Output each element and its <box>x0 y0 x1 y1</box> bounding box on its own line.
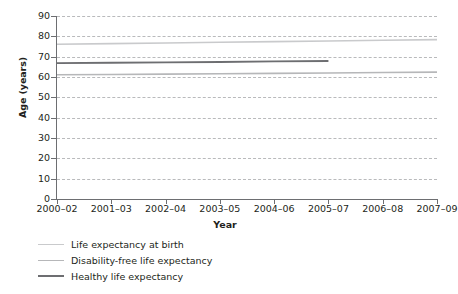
chart-legend: Life expectancy at birthDisability-free … <box>38 236 418 284</box>
legend-label: Disability-free life expectancy <box>71 255 212 266</box>
legend-swatch <box>38 275 64 277</box>
legend-swatch <box>38 244 64 245</box>
series-line <box>57 40 437 45</box>
plot-area: 0102030405060708090 <box>0 0 450 215</box>
x-tick-label: 2002–04 <box>145 203 186 215</box>
legend-swatch <box>38 260 64 261</box>
x-axis-title: Year <box>0 219 450 230</box>
x-tick-label: 2007–09 <box>416 203 457 215</box>
legend-item[interactable]: Life expectancy at birth <box>38 236 418 252</box>
legend-item[interactable]: Disability-free life expectancy <box>38 252 418 268</box>
x-tick-label: 2003–05 <box>199 203 240 215</box>
legend-label: Healthy life expectancy <box>71 271 183 282</box>
series-line <box>57 61 328 63</box>
legend-label: Life expectancy at birth <box>71 239 184 250</box>
x-tick-label: 2001–03 <box>91 203 132 215</box>
x-tick-label: 2004–06 <box>254 203 295 215</box>
legend-item[interactable]: Healthy life expectancy <box>38 268 418 284</box>
x-tick-label-group: 2000–022001–032002–042003–052004–062005–… <box>0 203 450 219</box>
x-tick-label: 2005–07 <box>308 203 349 215</box>
series-line-group <box>0 0 450 215</box>
series-line <box>57 72 437 75</box>
x-tick-label: 2006–08 <box>362 203 403 215</box>
x-tick-label: 2000–02 <box>36 203 77 215</box>
